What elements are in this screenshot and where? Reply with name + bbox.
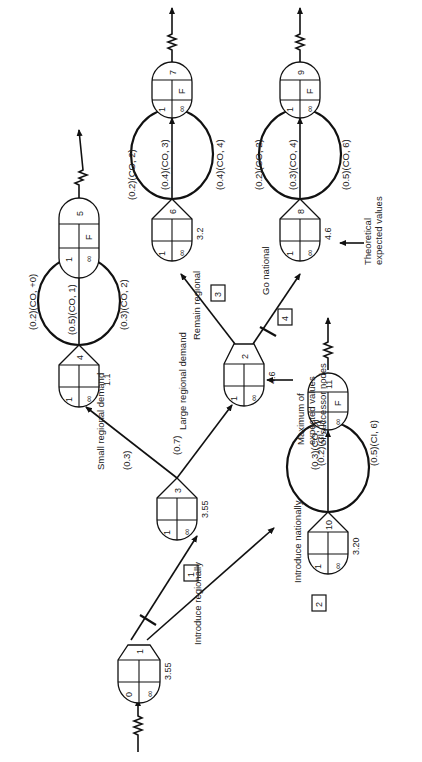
node-5-f: F	[84, 234, 94, 240]
node-6-value: 3.2	[195, 227, 205, 240]
node-5-id: 5	[75, 211, 85, 216]
svg-text:4: 4	[280, 316, 290, 321]
node-2-id: 2	[240, 354, 250, 359]
svg-text:2: 2	[314, 602, 324, 607]
node-10-value: 3.20	[351, 537, 361, 555]
node-10-inf: ∞	[333, 563, 343, 569]
small-regional-prob: (0.3)	[121, 450, 132, 470]
introduce-nationally-label: Introduce nationally	[292, 500, 303, 583]
small-regional-demand-label: Small regional demand	[95, 373, 106, 470]
decision-box-3: 3	[211, 285, 225, 301]
node-8: 8 1 ∞ 4.6	[280, 199, 333, 261]
node8-outcome-1: (0.3)(CO, 4)	[287, 139, 298, 190]
node-2-value: 4.6	[267, 371, 277, 384]
node-6-tl: 1	[157, 251, 167, 256]
node-7-tl: 1	[157, 107, 167, 112]
node-8-value: 4.6	[323, 227, 333, 240]
node-2-tl: 1	[229, 396, 239, 401]
node-0-inf: ∞	[145, 691, 155, 697]
node-2: 2 1 ∞ 4.6	[224, 344, 277, 406]
node10-outcome-2: (0.5)(CI, 6)	[368, 420, 379, 466]
node-5-tl: 1	[64, 257, 74, 262]
node-4-inf: ∞	[84, 396, 94, 402]
node-9-inf: ∞	[305, 106, 315, 112]
node-11-inf: ∞	[333, 419, 343, 425]
node-4-tl: 1	[64, 397, 74, 402]
node-3-inf: ∞	[182, 529, 192, 535]
node-5: 5 F 1 ∞	[59, 198, 99, 278]
node8-outcome-2: (0.5)(CO, 6)	[340, 139, 351, 190]
go-national-label: Go national	[260, 246, 271, 295]
node-3-value: 3.55	[200, 500, 210, 518]
large-regional-prob: (0.7)	[171, 435, 182, 455]
node-7-id: 7	[168, 70, 178, 75]
theoretical-annotation: Theoretical expected values	[362, 196, 384, 265]
node-10: 10 1 ∞ 3.20	[308, 512, 361, 574]
node-9-id: 9	[296, 70, 306, 75]
node-7-inf: ∞	[177, 106, 187, 112]
node-11-f: F	[333, 400, 343, 406]
node-6: 6 1 ∞ 3.2	[152, 199, 205, 261]
node-6-id: 6	[168, 209, 178, 214]
node-0-value: 3.55	[163, 662, 173, 680]
svg-text:3: 3	[213, 292, 223, 297]
remain-regional-label: Remain regional	[191, 271, 202, 340]
large-regional-demand-label: Large regional demand	[177, 332, 188, 430]
introduce-regionally-label: Introduce regionally	[192, 562, 203, 645]
node-1-label: 1	[135, 649, 145, 654]
node-0: 1 0 ∞ 3.55	[118, 645, 173, 703]
decision-box-2: 2	[312, 595, 326, 611]
max-expected-annotation: Maximum of expected values of successor …	[295, 363, 328, 445]
node-7-f: F	[177, 88, 187, 94]
node-4-id: 4	[75, 355, 85, 360]
node-8-tl: 1	[285, 251, 295, 256]
node-0-id: 0	[124, 692, 134, 697]
decision-tree-diagram: 1 0 ∞ 3.55 3 1 ∞ 3.55 4 1 ∞ 1.1 5 F 1 ∞	[0, 0, 422, 762]
node-2-inf: ∞	[249, 395, 259, 401]
node-9: 9 F 1 ∞	[280, 62, 320, 118]
node-6-inf: ∞	[177, 250, 187, 256]
node8-outcome-0: (0.2)(CO, 2)	[253, 139, 264, 190]
node4-outcome-0: (0.2)(CO, +0)	[27, 274, 38, 330]
node-9-tl: 1	[285, 107, 295, 112]
node6-outcome-1: (0.4)(CO, 3)	[159, 139, 170, 190]
node4-outcome-1: (0.5)(CO, 1)	[66, 284, 77, 335]
node-10-id: 10	[324, 520, 334, 530]
node6-outcome-2: (0.4)(CO, 4)	[214, 139, 225, 190]
node6-outcome-0: (0.2)(CO, 2)	[126, 149, 137, 200]
node-7: 7 F 1 ∞	[152, 62, 192, 118]
decision-box-4: 4	[278, 309, 292, 325]
node4-outcome-2: (0.3)(CO, 2)	[118, 279, 129, 330]
node-3: 3 1 ∞ 3.55	[157, 478, 210, 540]
node-10-tl: 1	[313, 564, 323, 569]
node-5-inf: ∞	[84, 256, 94, 262]
node-9-f: F	[305, 88, 315, 94]
node-3-tl: 1	[162, 530, 172, 535]
node-3-id: 3	[173, 488, 183, 493]
node-8-inf: ∞	[305, 250, 315, 256]
node-8-id: 8	[296, 209, 306, 214]
